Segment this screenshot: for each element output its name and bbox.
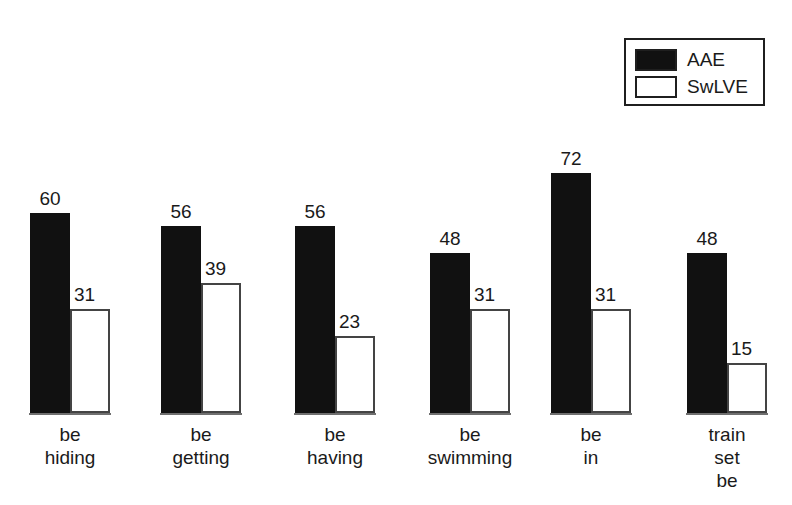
bar-aae bbox=[687, 253, 727, 413]
bar-swlve bbox=[727, 363, 767, 413]
legend-label-aae: AAE bbox=[687, 49, 725, 71]
bar-value-swlve: 15 bbox=[731, 339, 752, 358]
bar-chart: 6031be hiding5639be getting5623be having… bbox=[0, 0, 792, 505]
legend-swatch-hollow-icon bbox=[635, 76, 677, 98]
category-label: train set be bbox=[657, 423, 792, 492]
legend-swatch-filled-icon bbox=[635, 49, 677, 71]
legend-label-swlve: SwLVE bbox=[687, 76, 748, 98]
chart-legend: AAE SwLVE bbox=[624, 38, 765, 106]
bar-value-aae: 48 bbox=[687, 229, 727, 248]
legend-entry-swlve: SwLVE bbox=[635, 74, 763, 100]
group-baseline bbox=[686, 413, 768, 415]
legend-entry-aae: AAE bbox=[635, 47, 763, 73]
